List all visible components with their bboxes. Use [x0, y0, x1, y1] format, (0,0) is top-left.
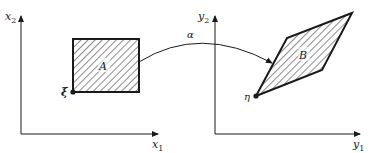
x1-axis-label: x1	[152, 138, 163, 153]
mapping-label-alpha: α	[187, 29, 194, 40]
region-a-label: A	[98, 60, 107, 73]
mapping-diagram: x2 x1 A ξ α y2 y1 B η	[0, 0, 371, 153]
diagram-canvas: x2 x1 A ξ α y2 y1 B η	[0, 0, 371, 153]
mapping-arrow	[139, 43, 272, 63]
y1-axis-label: y1	[352, 138, 364, 153]
point-eta	[253, 93, 258, 98]
x2-axis-label: x2	[5, 10, 16, 25]
point-xi-label: ξ	[61, 86, 68, 99]
region-b-label: B	[298, 49, 307, 62]
point-eta-label: η	[244, 91, 250, 102]
y2-axis-label: y2	[197, 10, 209, 25]
point-xi	[70, 89, 75, 94]
